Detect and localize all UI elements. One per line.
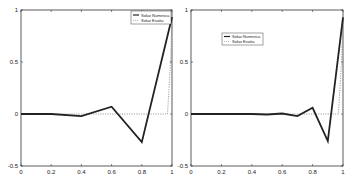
x-tick-labels: 0 0.2 0.4 0.6 0.8 1 xyxy=(189,169,345,175)
svg-text:0.2: 0.2 xyxy=(47,169,56,175)
svg-text:0: 0 xyxy=(189,169,193,175)
axis-ticks xyxy=(21,10,172,166)
legend: Soluz Numerica Soluz Esatta xyxy=(131,11,171,24)
svg-text:0: 0 xyxy=(15,111,19,117)
svg-text:1: 1 xyxy=(170,169,174,175)
right-plot: Soluz Numerica Soluz Esatta 1 0.5 0 -0.5… xyxy=(178,7,346,175)
svg-text:-0.5: -0.5 xyxy=(178,163,189,169)
svg-text:-0.5: -0.5 xyxy=(8,163,19,169)
exact-solution-line xyxy=(21,17,172,114)
svg-text:0.8: 0.8 xyxy=(308,169,317,175)
y-tick-labels: 1 0.5 0 -0.5 xyxy=(178,7,189,169)
numerical-solution-line xyxy=(21,17,172,142)
legend: Soluz Numerica Soluz Esatta xyxy=(222,33,263,45)
plot-frame xyxy=(191,10,343,166)
svg-text:1: 1 xyxy=(15,7,19,13)
svg-text:0.6: 0.6 xyxy=(278,169,287,175)
plot-frame xyxy=(21,10,172,166)
numerical-solution-line xyxy=(191,17,343,141)
x-tick-labels: 0 0.2 0.4 0.6 0.8 1 xyxy=(19,169,174,175)
exact-solution-line xyxy=(191,17,343,114)
svg-text:0.8: 0.8 xyxy=(138,169,147,175)
svg-text:0.5: 0.5 xyxy=(180,59,189,65)
svg-text:0.5: 0.5 xyxy=(10,59,19,65)
svg-text:1: 1 xyxy=(185,7,189,13)
svg-text:0: 0 xyxy=(19,169,23,175)
legend-label-numerica: Soluz Numerica xyxy=(141,13,170,18)
svg-text:0: 0 xyxy=(185,111,189,117)
left-plot: Soluz Numerica Soluz Esatta 1 0.5 0 -0.5… xyxy=(8,7,175,175)
y-tick-labels: 1 0.5 0 -0.5 xyxy=(8,7,19,169)
axis-ticks xyxy=(191,10,343,166)
svg-text:0.6: 0.6 xyxy=(107,169,116,175)
svg-text:0.2: 0.2 xyxy=(217,169,226,175)
figure: Soluz Numerica Soluz Esatta 1 0.5 0 -0.5… xyxy=(0,0,353,184)
svg-text:1: 1 xyxy=(341,169,345,175)
svg-text:0.4: 0.4 xyxy=(248,169,257,175)
legend-label-esatta: Soluz Esatta xyxy=(141,18,164,23)
svg-text:0.4: 0.4 xyxy=(77,169,86,175)
legend-label-esatta: Soluz Esatta xyxy=(232,39,255,44)
